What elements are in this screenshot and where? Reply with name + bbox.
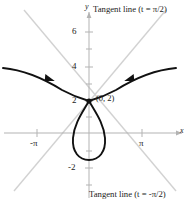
y-tick-label-negative-2: -2 — [68, 163, 76, 172]
x-axis-label: x — [180, 127, 184, 135]
x-tick-label-negative-pi: -π — [30, 139, 38, 148]
tangent-line-bottom-label: Tangent line (t = -π/2) — [89, 190, 166, 199]
y-tick-label-6: 6 — [72, 27, 77, 36]
arrow-left-branch — [45, 74, 56, 82]
plot-canvas — [0, 0, 191, 206]
y-tick-label-2: 2 — [72, 96, 77, 105]
tangent-line-top-label: Tangent line (t = π/2) — [93, 5, 167, 14]
y-axis-arrowhead — [87, 12, 92, 18]
parametric-curve-figure: 6 4 2 -2 -π π y x (0, 2) Tangent line (t… — [0, 0, 191, 206]
point-label-0-2: (0, 2) — [96, 94, 114, 103]
tangent-lines-group — [14, 10, 176, 191]
y-axis-label: y — [85, 3, 89, 11]
point-marker-0-2 — [86, 98, 91, 103]
y-tick-label-4: 4 — [72, 62, 77, 71]
arrow-right-branch — [124, 74, 135, 82]
x-tick-label-pi: π — [139, 139, 144, 148]
